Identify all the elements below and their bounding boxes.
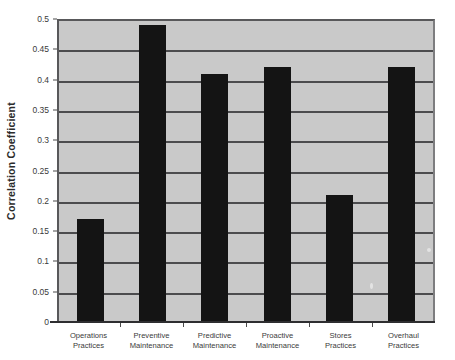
- x-axis-category-label: Operations Practices: [57, 331, 120, 350]
- bar: [77, 219, 104, 322]
- x-axis-left-cap: [50, 321, 57, 323]
- bar: [201, 74, 228, 322]
- x-axis-tick-marks: [57, 323, 435, 328]
- x-axis-tick-mark: [372, 323, 373, 327]
- x-axis-tick-mark: [183, 323, 184, 327]
- bar-chart-figure: Correlation Coefficient 0.50.450.40.350.…: [0, 0, 455, 360]
- y-axis-tick-label: 0.3: [37, 135, 49, 145]
- bar-series: [59, 21, 433, 322]
- plot-area: [57, 19, 435, 322]
- bar: [388, 67, 415, 322]
- x-axis-tick-mark: [246, 323, 247, 327]
- x-axis-category-labels: Operations PracticesPreventive Maintenan…: [57, 331, 435, 350]
- y-axis-title: Correlation Coefficient: [0, 0, 22, 322]
- bar-cell: [121, 21, 183, 322]
- y-axis-tick-label: 0.4: [37, 75, 49, 85]
- x-axis-tick-mark: [120, 323, 121, 327]
- y-axis-tick-label: 0.45: [32, 44, 49, 54]
- y-axis-tick-label: 0.35: [32, 105, 49, 115]
- y-axis-title-text: Correlation Coefficient: [5, 102, 17, 220]
- y-axis-tick-label: 0.05: [32, 287, 49, 297]
- y-axis-tick-labels: 0.50.450.40.350.30.250.20.150.10.050: [20, 19, 53, 322]
- x-axis-category-label: Predictive Maintenance: [183, 331, 246, 350]
- bar-cell: [246, 21, 308, 322]
- y-axis-tick-label: 0: [44, 317, 49, 327]
- bar-cell: [59, 21, 121, 322]
- y-axis-tick-label: 0.5: [37, 14, 49, 24]
- bar-cell: [308, 21, 370, 322]
- x-axis-tick-mark: [309, 323, 310, 327]
- bar-cell: [184, 21, 246, 322]
- x-axis-category-label: Proactive Maintenance: [246, 331, 309, 350]
- bar: [326, 195, 353, 322]
- x-axis-category-label: Stores Practices: [309, 331, 372, 350]
- y-axis-tick-label: 0.15: [32, 226, 49, 236]
- y-axis-tick-label: 0.25: [32, 166, 49, 176]
- bar-cell: [371, 21, 433, 322]
- bar: [264, 67, 291, 322]
- x-axis-category-label: Preventive Maintenance: [120, 331, 183, 350]
- bar: [139, 25, 166, 322]
- y-axis-tick-label: 0.2: [37, 196, 49, 206]
- y-axis-tick-label: 0.1: [37, 256, 49, 266]
- x-axis-category-label: Overhaul Practices: [372, 331, 435, 350]
